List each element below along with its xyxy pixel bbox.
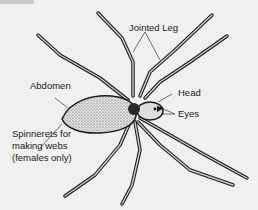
label-spinnerets-line3: (females only) xyxy=(12,152,72,163)
label-jointed-leg: Jointed Leg xyxy=(129,22,178,33)
abdomen-shape xyxy=(62,96,136,133)
label-spinnerets-line1: Spinnerets for xyxy=(12,128,71,139)
label-head: Head xyxy=(178,87,201,98)
label-spinnerets-line2: making webs xyxy=(12,140,67,151)
spider-diagram: Jointed Leg Abdomen Head Eyes Spinnerets… xyxy=(0,0,258,210)
head-shape xyxy=(137,102,163,120)
label-eyes: Eyes xyxy=(178,108,199,119)
label-abdomen: Abdomen xyxy=(30,80,71,91)
